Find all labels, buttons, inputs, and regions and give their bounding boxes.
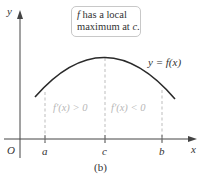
tick-label-a: a bbox=[42, 146, 48, 157]
tick-label-b: b bbox=[159, 146, 165, 157]
figure-caption: (b) bbox=[94, 162, 107, 173]
callout-line-2: maximum at c. bbox=[77, 21, 140, 33]
origin-label: O bbox=[7, 145, 15, 156]
curve-label: y = f(x) bbox=[148, 57, 181, 68]
callout-period: . bbox=[137, 21, 140, 32]
y-axis-label: y bbox=[7, 6, 12, 17]
callout-text-2: maximum at bbox=[77, 21, 132, 32]
derivative-negative-label: f′(x) < 0 bbox=[111, 103, 145, 114]
y-axis-arrow-icon bbox=[17, 10, 23, 19]
x-axis-arrow-icon bbox=[188, 136, 197, 142]
tick-label-c: c bbox=[102, 146, 107, 157]
derivative-positive-label: f′(x) > 0 bbox=[53, 103, 87, 114]
callout-text-1: has a local bbox=[80, 9, 127, 20]
local-maximum-callout: f has a local maximum at c. bbox=[71, 6, 141, 37]
x-axis-label: x bbox=[191, 144, 196, 155]
callout-line-1: f has a local bbox=[77, 9, 140, 21]
